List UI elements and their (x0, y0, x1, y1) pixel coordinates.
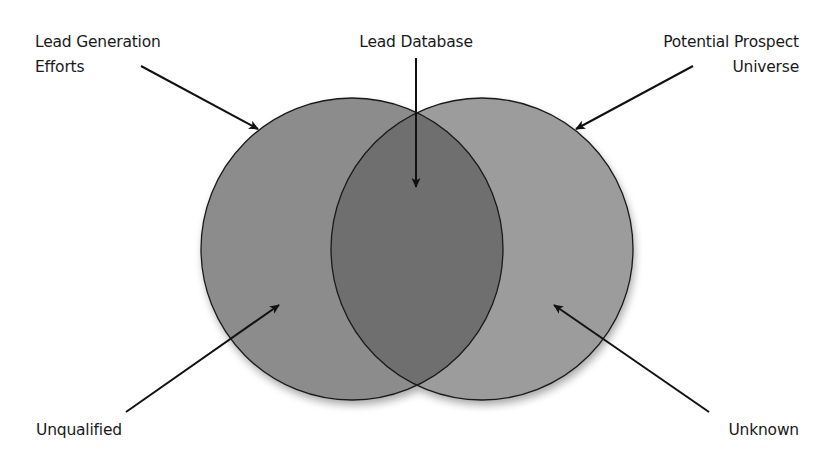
unknown-line1: Unknown (728, 418, 799, 443)
unqualified-label: Unqualified (36, 418, 122, 443)
unknown-label: Unknown (728, 418, 799, 443)
lead-generation-line1: Lead Generation (35, 30, 161, 55)
unqualified-line1: Unqualified (36, 418, 122, 443)
potential-prospect-line2: Universe (663, 55, 799, 80)
potential-prospect-label: Potential Prospect Universe (663, 30, 799, 80)
lead-generation-line2: Efforts (35, 55, 161, 80)
lead-generation-label: Lead Generation Efforts (35, 30, 161, 80)
lead-database-line1: Lead Database (336, 30, 496, 55)
lead-database-label: Lead Database (336, 30, 496, 55)
potential-prospect-line1: Potential Prospect (663, 30, 799, 55)
